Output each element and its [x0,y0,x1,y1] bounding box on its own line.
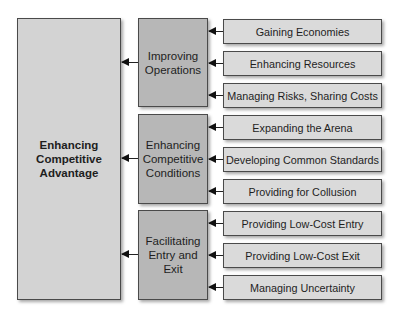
root-label-line: Enhancing [36,138,102,152]
item-box-managing-risks-sharing-costs: Managing Risks, Sharing Costs [223,83,382,108]
arrow-left-icon [209,63,223,64]
group-box-facilitating-entry-and-exit: Facilitating Entry and Exit [138,210,208,300]
arrow-left-icon [209,255,223,256]
item-box-developing-common-standards: Developing Common Standards [223,147,382,172]
arrow-left-icon [122,158,138,159]
arrow-left-icon [209,31,223,32]
group-label-line: Facilitating [146,234,201,248]
root-box-enhancing-competitive-advantage: Enhancing Competitive Advantage [17,18,121,300]
item-label: Providing for Collusion [248,186,356,198]
item-label: Developing Common Standards [226,154,379,166]
group-label-line: Entry and [146,248,201,262]
item-label: Managing Risks, Sharing Costs [227,90,378,102]
arrow-left-icon [209,127,223,128]
group-label-line: Exit [146,262,201,276]
root-label-line: Competitive [36,152,102,166]
arrow-left-icon [209,287,223,288]
item-box-providing-for-collusion: Providing for Collusion [223,179,382,204]
arrow-left-icon [209,159,223,160]
item-label: Gaining Economies [256,26,350,38]
item-box-expanding-the-arena: Expanding the Arena [223,115,382,140]
arrow-left-icon [209,191,223,192]
group-box-enhancing-competitive-conditions: Enhancing Competitive Conditions [138,114,208,204]
item-box-enhancing-resources: Enhancing Resources [223,51,382,76]
item-label: Enhancing Resources [250,58,356,70]
group-label-line: Competitive [143,152,204,166]
group-label-line: Conditions [143,166,204,180]
item-box-managing-uncertainty: Managing Uncertainty [223,275,382,300]
item-box-providing-low-cost-exit: Providing Low-Cost Exit [223,243,382,268]
group-label-line: Operations [145,63,201,77]
item-label: Managing Uncertainty [250,282,355,294]
arrow-left-icon [122,62,138,63]
item-label: Expanding the Arena [252,122,352,134]
item-box-gaining-economies: Gaining Economies [223,19,382,44]
item-box-providing-low-cost-entry: Providing Low-Cost Entry [223,211,382,236]
arrow-left-icon [209,223,223,224]
arrow-left-icon [209,95,223,96]
group-box-improving-operations: Improving Operations [138,18,208,107]
item-label: Providing Low-Cost Entry [242,218,364,230]
group-label-line: Improving [145,49,201,63]
root-label-line: Advantage [36,166,102,180]
arrow-left-icon [122,254,138,255]
group-label-line: Enhancing [143,138,204,152]
item-label: Providing Low-Cost Exit [245,250,360,262]
